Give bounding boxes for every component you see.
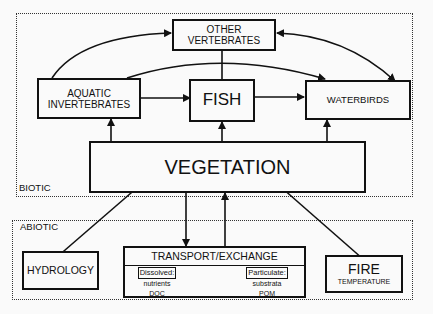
dissolved-item-nutrients: nutrients xyxy=(144,280,171,287)
particulate-item-pom: POM xyxy=(259,290,275,297)
particulate-title: Particulate: xyxy=(246,267,288,279)
dissolved-item-doc: DOC xyxy=(149,290,165,297)
fish-label: FISH xyxy=(203,91,242,110)
fire-sublabel: TEMPERATURE xyxy=(338,278,390,286)
particulate-item-substrata: substrata xyxy=(253,280,282,287)
other-vertebrates-line2: VERTEBRATES xyxy=(188,35,260,46)
dissolved-group: Dissolved: nutrients DOC xyxy=(127,267,187,298)
node-other-vertebrates: OTHER VERTEBRATES xyxy=(172,19,276,51)
waterbirds-label: WATERBIRDS xyxy=(327,95,389,105)
node-hydrology: HYDROLOGY xyxy=(22,251,99,290)
aquatic-invertebrates-line1: AQUATIC xyxy=(67,88,111,99)
node-vegetation: VEGETATION xyxy=(89,141,366,193)
fire-label: FIRE xyxy=(348,262,380,277)
aquatic-invertebrates-line2: INVERTEBRATES xyxy=(48,99,130,110)
node-waterbirds: WATERBIRDS xyxy=(305,80,411,120)
dissolved-title: Dissolved: xyxy=(138,267,177,279)
node-fish: FISH xyxy=(189,79,255,122)
node-fire: FIRE TEMPERATURE xyxy=(325,255,403,293)
vegetation-label: VEGETATION xyxy=(165,156,291,178)
particulate-group: Particulate: substrata POM xyxy=(237,267,297,298)
node-transport-exchange: TRANSPORT/EXCHANGE Dissolved: nutrients … xyxy=(123,246,306,298)
node-aquatic-invertebrates: AQUATIC INVERTEBRATES xyxy=(37,78,141,119)
other-vertebrates-line1: OTHER xyxy=(207,24,242,35)
hydrology-label: HYDROLOGY xyxy=(27,265,94,277)
transport-exchange-label: TRANSPORT/EXCHANGE xyxy=(125,248,304,266)
